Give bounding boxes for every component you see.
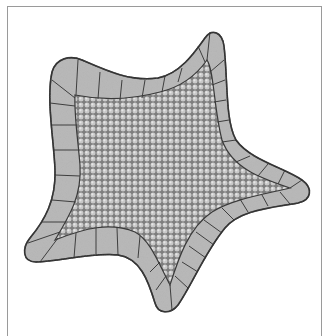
starfish-illustration: [0, 0, 331, 329]
